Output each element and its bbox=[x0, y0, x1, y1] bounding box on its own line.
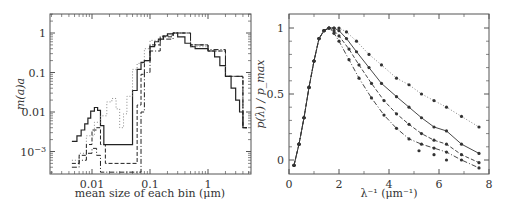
data-point-marker bbox=[347, 58, 350, 61]
data-point-marker bbox=[445, 129, 448, 132]
data-point-marker bbox=[297, 143, 300, 146]
data-point-marker bbox=[477, 166, 480, 169]
left-series-dotted bbox=[72, 33, 247, 160]
data-point-marker bbox=[420, 116, 423, 119]
right-x-axis-label: λ⁻¹ (μm⁻¹) bbox=[360, 187, 417, 200]
data-point-marker bbox=[382, 114, 385, 117]
data-point-marker bbox=[307, 86, 310, 89]
left-tick-labels: 0.010.1110.10.0110−3 bbox=[20, 27, 211, 191]
data-point-marker bbox=[477, 161, 480, 164]
data-point-marker bbox=[445, 158, 448, 161]
data-point-marker bbox=[345, 30, 348, 33]
data-point-marker bbox=[477, 125, 480, 128]
left-y-tick-label: 1 bbox=[39, 27, 46, 40]
data-point-marker bbox=[407, 137, 410, 140]
data-point-marker bbox=[477, 152, 480, 155]
data-point-marker bbox=[407, 106, 410, 109]
left-y-axis-label: m(a)a bbox=[14, 78, 27, 110]
left-series-dash-dot bbox=[72, 33, 247, 172]
right-series-dotted bbox=[294, 28, 479, 165]
data-point-marker bbox=[395, 77, 398, 80]
figure: 0.010.1110.10.0110−3 mean size of each b… bbox=[0, 0, 507, 216]
data-point-marker bbox=[355, 40, 358, 43]
data-point-marker bbox=[367, 53, 370, 56]
data-point-marker bbox=[357, 77, 360, 80]
right-y-tick-label: 1 bbox=[277, 22, 284, 35]
right-tick-labels: 0246800.51 bbox=[267, 22, 493, 191]
data-point-marker bbox=[312, 59, 315, 62]
data-point-marker bbox=[445, 106, 448, 109]
data-point-marker bbox=[432, 99, 435, 102]
data-point-marker bbox=[407, 123, 410, 126]
data-point-marker bbox=[355, 50, 358, 53]
left-series-dashed bbox=[72, 33, 247, 163]
data-point-marker bbox=[322, 29, 325, 32]
data-point-marker bbox=[432, 125, 435, 128]
left-y-tick-label: 10−3 bbox=[20, 145, 46, 159]
data-point-marker bbox=[302, 116, 305, 119]
data-point-marker bbox=[420, 132, 423, 135]
data-point-marker bbox=[337, 40, 340, 43]
data-point-marker bbox=[395, 112, 398, 115]
data-point-marker bbox=[445, 150, 448, 153]
data-point-marker bbox=[337, 29, 340, 32]
data-point-marker bbox=[460, 153, 463, 156]
data-point-marker bbox=[370, 82, 373, 85]
data-point-marker bbox=[327, 26, 330, 29]
data-point-marker bbox=[432, 139, 435, 142]
data-point-marker bbox=[317, 37, 320, 40]
right-series-group bbox=[292, 26, 480, 169]
data-point-marker bbox=[292, 164, 295, 167]
right-x-tick-label: 6 bbox=[436, 178, 443, 191]
left-plot-frame bbox=[50, 14, 251, 174]
right-series-solid bbox=[294, 28, 479, 165]
right-series-dashed bbox=[294, 28, 479, 165]
data-point-marker bbox=[432, 153, 435, 156]
data-point-marker bbox=[407, 83, 410, 86]
data-point-marker bbox=[380, 63, 383, 66]
left-chart-size-distribution: 0.010.1110.10.0110−3 mean size of each b… bbox=[14, 14, 251, 200]
right-y-tick-label: 0.5 bbox=[267, 88, 285, 101]
data-point-marker bbox=[420, 92, 423, 95]
data-point-marker bbox=[395, 95, 398, 98]
data-point-marker bbox=[420, 143, 423, 146]
data-point-marker bbox=[337, 34, 340, 37]
data-point-marker bbox=[345, 37, 348, 40]
right-y-axis-label: p(λ) / p_max bbox=[254, 59, 267, 129]
left-y-tick-label: 0.1 bbox=[29, 67, 47, 80]
data-point-marker bbox=[460, 115, 463, 118]
data-point-marker bbox=[357, 63, 360, 66]
right-chart-polarization: 0246800.51 λ⁻¹ (μm⁻¹) p(λ) / p_max bbox=[254, 14, 493, 200]
data-point-marker bbox=[380, 82, 383, 85]
right-x-tick-label: 8 bbox=[486, 178, 493, 191]
left-series-group bbox=[72, 33, 247, 172]
right-x-tick-label: 0 bbox=[286, 178, 293, 191]
data-point-marker bbox=[370, 96, 373, 99]
left-x-axis-label: mean size of each bin (μm) bbox=[75, 187, 225, 200]
left-axis-ticks bbox=[50, 14, 251, 174]
data-point-marker bbox=[460, 143, 463, 146]
data-point-marker bbox=[432, 147, 435, 150]
right-x-tick-label: 2 bbox=[336, 178, 343, 191]
data-point-marker bbox=[382, 99, 385, 102]
data-point-marker bbox=[347, 48, 350, 51]
data-point-marker bbox=[367, 66, 370, 69]
right-series-dash-dot bbox=[294, 28, 479, 168]
right-y-tick-label: 0 bbox=[277, 154, 284, 167]
data-point-marker bbox=[445, 143, 448, 146]
data-point-marker bbox=[395, 127, 398, 130]
data-point-marker bbox=[417, 149, 420, 152]
data-point-marker bbox=[460, 158, 463, 161]
data-point-marker bbox=[332, 32, 335, 35]
